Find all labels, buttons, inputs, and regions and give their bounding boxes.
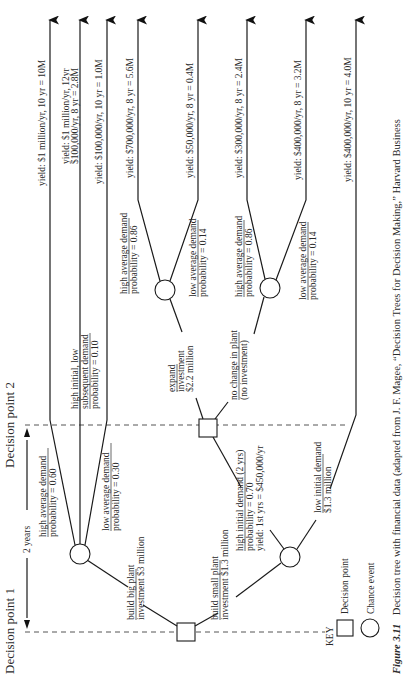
big-low-prob: probability = 0.30 xyxy=(111,462,121,531)
big-mixed-label-2: subsequent demand xyxy=(80,334,90,409)
key-decision-icon xyxy=(337,620,353,636)
branch-small-plant-2 xyxy=(236,563,281,597)
outcome-label-3: yield: $100,000/yr, 10 yr = 1.0M xyxy=(94,59,104,184)
outcome-label-6: yield: $300,000/yr, 8 yr = 2.4M xyxy=(234,57,244,178)
expand-high-prob: probability = 0.86 xyxy=(129,225,139,294)
outcome-label-2b: $100,000/yr, 8 yr = 2.8M xyxy=(70,67,80,164)
low-initial-label: low initial demand xyxy=(313,442,323,513)
big-low-label: low average demand xyxy=(101,452,111,531)
big-high-prob: probability = 0.60 xyxy=(48,468,58,537)
big-plant-label: build big plant xyxy=(126,564,136,620)
decision-point-2-label: Decision point 2 xyxy=(2,382,17,468)
branch-high-initial xyxy=(270,530,284,549)
figure-caption: Figure 3.11 Decision tree with financial… xyxy=(391,119,403,674)
expand-high-label: high average demand xyxy=(119,213,129,294)
big-mixed-prob: probability = 0.10 xyxy=(90,340,100,409)
figure-caption-text: Decision tree with financial data (adapt… xyxy=(391,119,403,615)
figure-number: Figure 3.11 xyxy=(391,624,402,674)
branch-no-change xyxy=(215,402,228,419)
interval-arrowhead-top xyxy=(24,428,30,437)
branch-big-plant-2 xyxy=(87,560,128,587)
interval-arrowhead-bottom xyxy=(24,620,30,629)
nochange-low-label: low average demand xyxy=(298,221,308,300)
outcome-label-4: yield: $700,000/yr, 8 yr = 5.6M xyxy=(125,57,135,178)
small-plant-label: build small plant xyxy=(210,556,220,620)
expand-amount: $2.2 million xyxy=(185,345,195,392)
key-decision-label: Decision point xyxy=(340,558,350,614)
outcome-label-1: yield: $1 million/yr, 10 yr = 10M xyxy=(37,59,47,186)
outcome-label-8: yield: $400,000/yr, 10 yr = 4.0M xyxy=(343,57,353,182)
nochange-high-prob: probability = 0.86 xyxy=(244,228,254,297)
chance-node-expand xyxy=(155,280,175,300)
big-mixed-label-1: high initial, low xyxy=(70,348,80,409)
no-change-label: no change in plant xyxy=(229,330,239,400)
small-plant-investment: investment $1.3 million xyxy=(220,529,230,620)
outcome-label-7: yield: $400,000/yr, 8 yr = 3.2M xyxy=(293,59,303,180)
nochange-low-prob: probability = 0.14 xyxy=(308,231,318,300)
decision-node-1 xyxy=(177,623,195,641)
outcome-line-4 xyxy=(138,20,160,281)
decision-tree: Decision point 1 Decision point 2 2 year… xyxy=(0,0,405,674)
expand-low-prob: probability = 0.14 xyxy=(198,228,208,297)
low-initial-investment: $1.3 million xyxy=(323,466,333,513)
big-plant-investment: investment $3 million xyxy=(136,536,146,620)
interval-label: 2 years xyxy=(22,526,32,553)
branch-expand xyxy=(196,398,203,419)
high-initial-yield: yield: 1st yrs = $450,000/yr xyxy=(255,445,265,551)
big-high-label: high average demand xyxy=(38,456,48,537)
no-change-note: (no investment) xyxy=(239,340,250,400)
nochange-high-label: high average demand xyxy=(234,216,244,297)
branch-expand-2 xyxy=(170,299,182,332)
key-chance-label: Chance event xyxy=(366,562,376,614)
branch-big-plant xyxy=(143,605,177,626)
branch-low-initial xyxy=(297,520,316,549)
branch-no-change-2 xyxy=(254,297,264,334)
high-initial-prob: probability = 0.70 xyxy=(245,482,255,551)
key-chance-icon xyxy=(361,619,379,637)
outcome-label-5: yield: $50,000/yr, 8 yr = 0.4M xyxy=(185,62,195,178)
decision-node-2 xyxy=(199,419,217,437)
chance-node-big-plant xyxy=(70,544,90,564)
expand-low-label: low average demand xyxy=(188,218,198,297)
key-title: KEY xyxy=(325,626,335,646)
decision-point-1-label: Decision point 1 xyxy=(2,588,17,674)
chance-node-no-change xyxy=(260,278,280,298)
chance-node-small-plant xyxy=(280,547,300,567)
